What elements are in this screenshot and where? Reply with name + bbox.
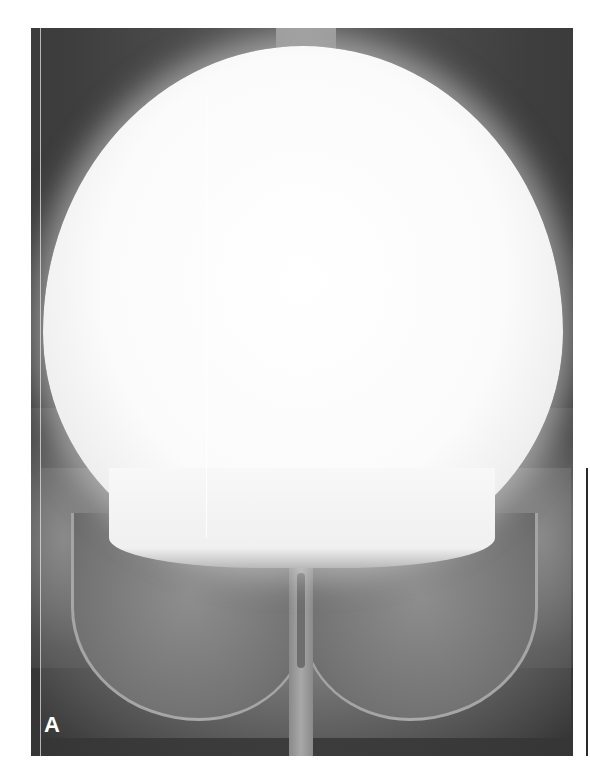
film-artifact-line (206, 98, 207, 538)
adjacent-panel-edge (586, 468, 588, 756)
pelvic-mass-lower-edge (109, 468, 495, 568)
panel-label: A (44, 714, 60, 736)
radiograph-image: A (31, 28, 573, 756)
symphysis-gap (297, 573, 305, 668)
left-film-edge-line (40, 28, 41, 756)
